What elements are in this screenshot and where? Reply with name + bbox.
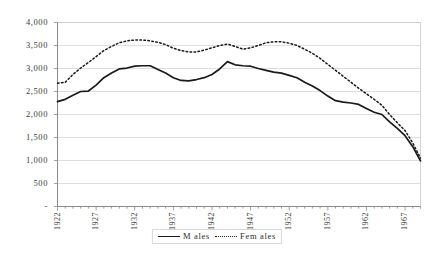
- x-axis-tick-label: 1922: [53, 212, 62, 230]
- x-axis-tick-label: 1947: [246, 212, 255, 230]
- x-axis-tick-label: 1957: [323, 212, 332, 230]
- y-axis-tick-label: -: [2, 201, 48, 211]
- y-axis-tick-label: 2,000: [2, 109, 48, 119]
- x-axis-tick-label: 1937: [168, 212, 177, 230]
- x-axis-tick-label: 1942: [207, 212, 216, 230]
- x-axis-tick-label: 1967: [400, 212, 409, 230]
- x-axis-tick-label: 1932: [130, 212, 139, 230]
- x-axis-tick-label: 1962: [361, 212, 370, 230]
- legend-line-solid-icon: [158, 236, 180, 237]
- y-axis-tick-label: 500: [2, 178, 48, 188]
- legend-label-females: Fem ales: [240, 231, 276, 241]
- y-axis-tick-label: 1,000: [2, 155, 48, 165]
- legend-item-males: M ales: [158, 231, 210, 241]
- x-axis-tick-label: 1952: [284, 212, 293, 230]
- y-axis-tick-label: 4,000: [2, 17, 48, 27]
- y-axis-tick-label: 1,500: [2, 132, 48, 142]
- legend-item-females: Fem ales: [215, 231, 276, 241]
- chart-legend: M ales Fem ales: [152, 229, 282, 244]
- x-axis-tick-label: 1927: [91, 212, 100, 230]
- y-axis-tick-label: 3,000: [2, 63, 48, 73]
- legend-label-males: M ales: [183, 231, 210, 241]
- y-axis-tick-label: 3,500: [2, 40, 48, 50]
- y-axis-tick-label: 2,500: [2, 86, 48, 96]
- legend-line-dotted-icon: [215, 236, 237, 237]
- chart-container: -5001,0001,5002,0002,5003,0003,5004,000 …: [0, 0, 434, 257]
